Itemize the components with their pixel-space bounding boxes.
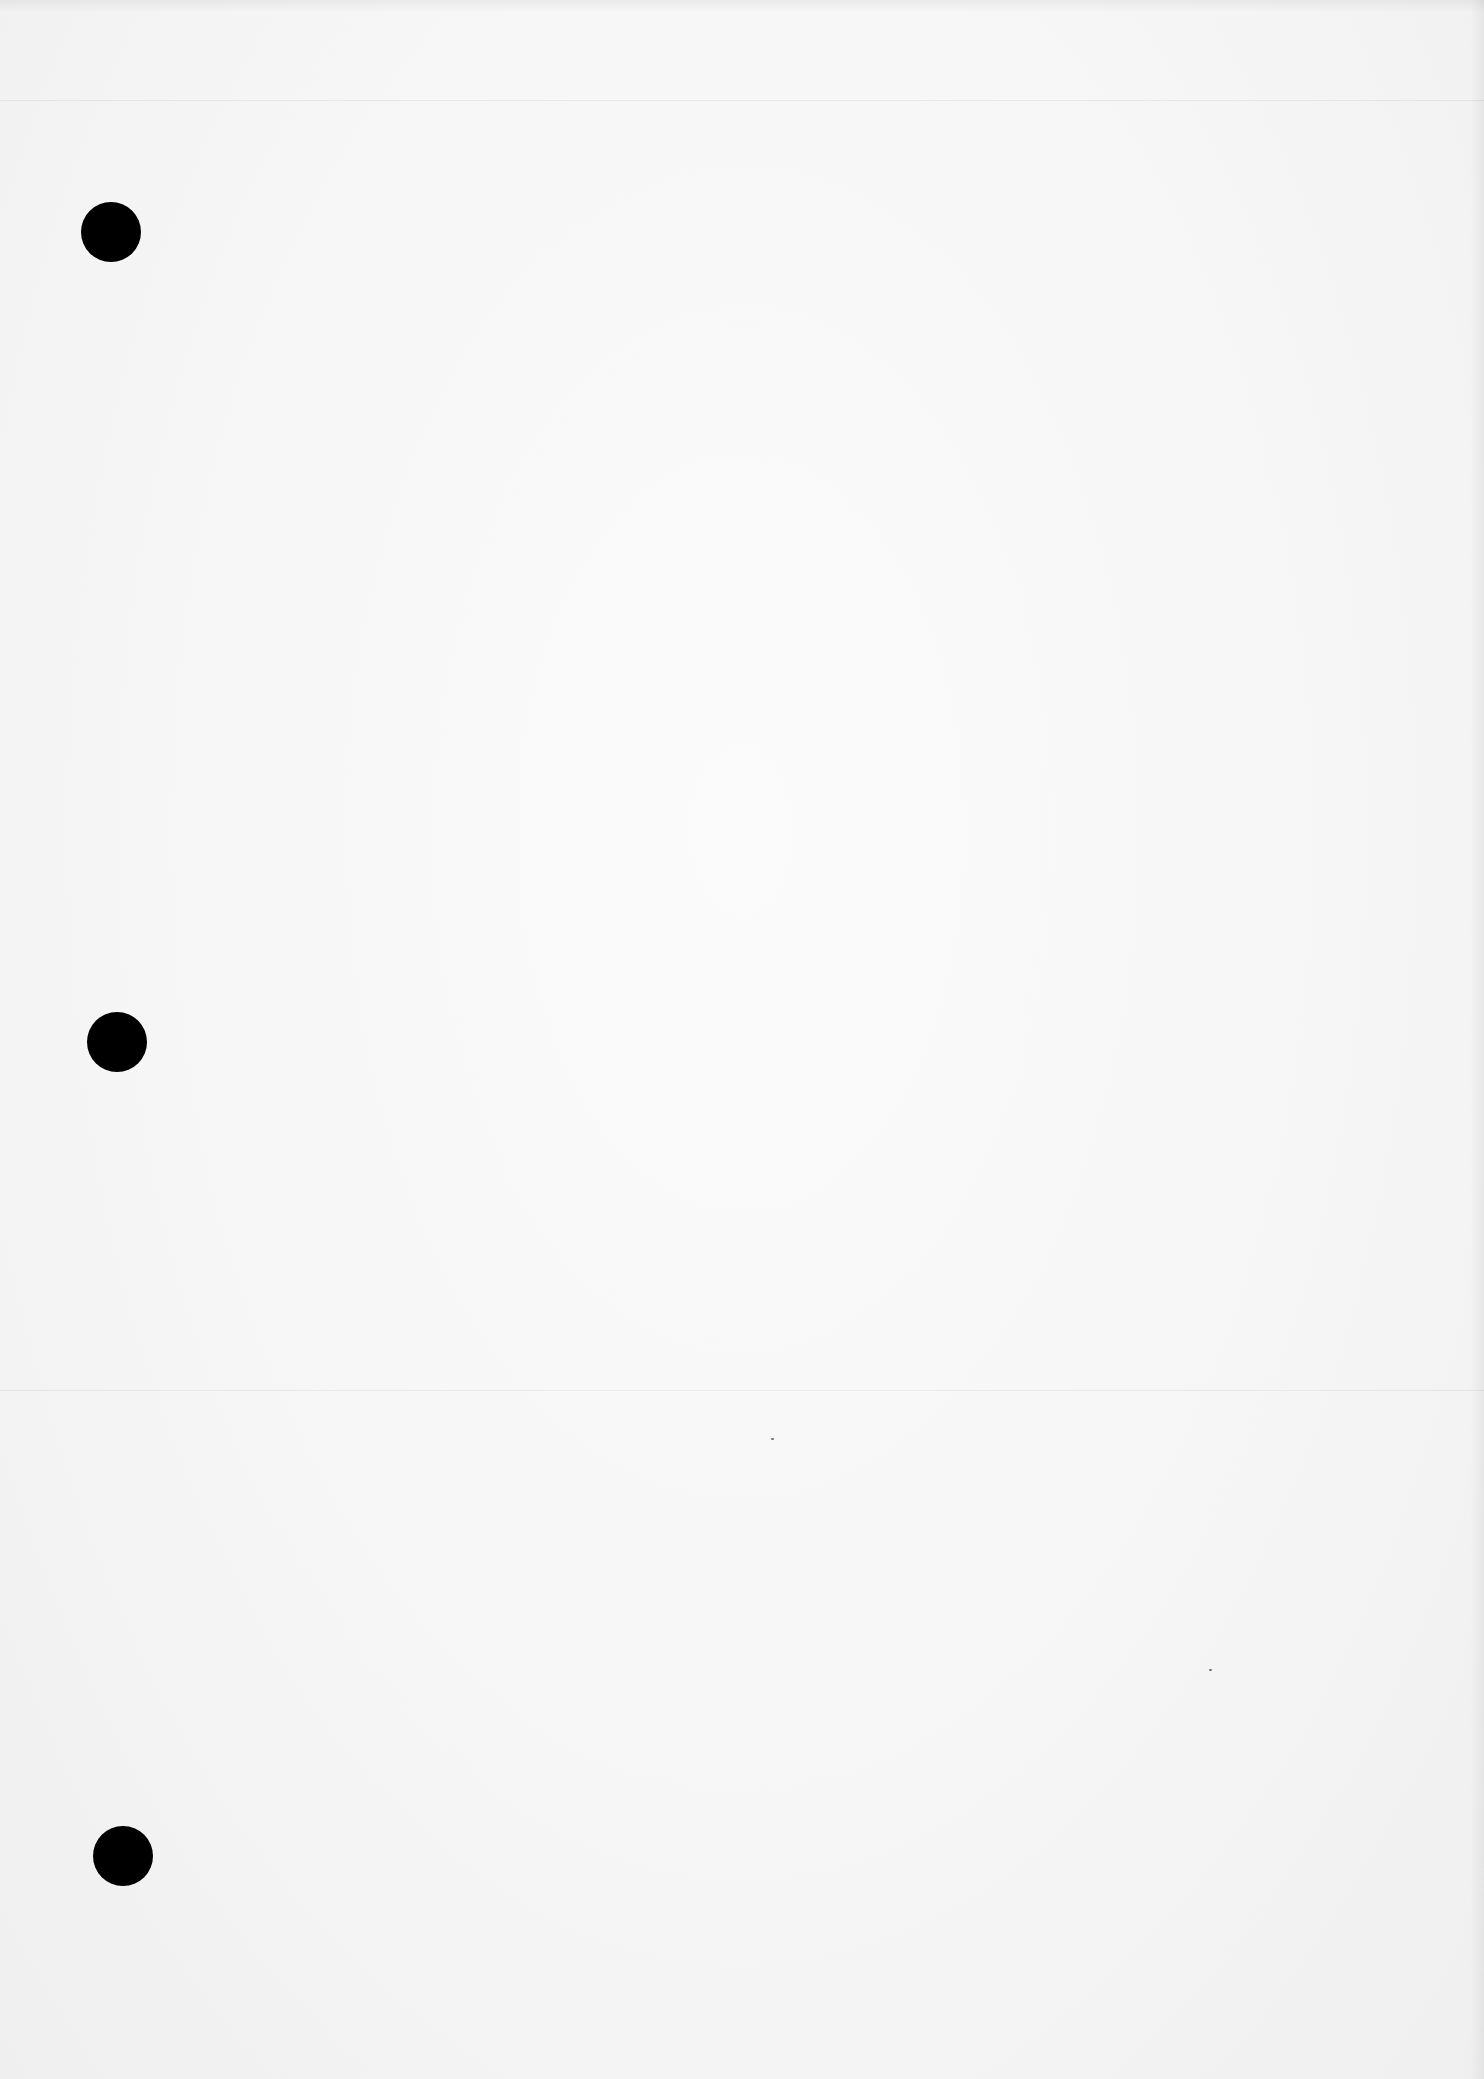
paper-speck bbox=[771, 1438, 774, 1440]
punch-hole-middle bbox=[87, 1012, 147, 1072]
punch-hole-bottom bbox=[93, 1826, 153, 1886]
punch-hole-top bbox=[81, 202, 141, 262]
page-fold-line bbox=[0, 1390, 1484, 1391]
scanned-page bbox=[0, 0, 1484, 2079]
page-top-edge-shadow bbox=[0, 0, 1484, 12]
page-crease-line bbox=[0, 100, 1484, 101]
paper-speck bbox=[1209, 1669, 1212, 1671]
page-right-edge-shadow bbox=[1470, 0, 1484, 2079]
